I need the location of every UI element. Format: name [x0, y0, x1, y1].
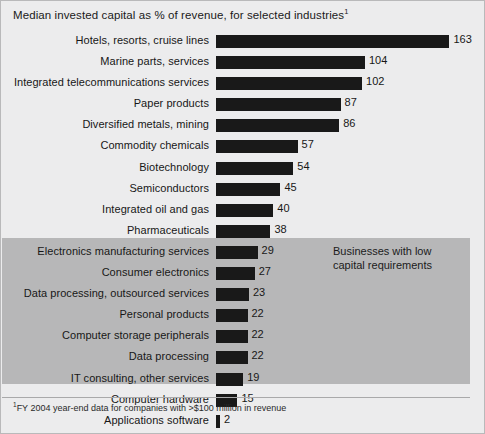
bar-value-label: 163 [453, 33, 471, 45]
bar-row: Pharmaceuticals38 [1, 221, 485, 242]
bar [216, 119, 339, 132]
bar [216, 225, 270, 238]
bar-category-label: Data processing, outsourced services [24, 287, 209, 299]
bar-row: Hotels, resorts, cruise lines163 [1, 31, 485, 52]
bar-track [216, 98, 341, 111]
bar-row: IT consulting, other services19 [1, 369, 485, 390]
bar-value-label: 19 [247, 371, 259, 383]
bar-row: Data processing, outsourced services23 [1, 284, 485, 305]
bar [216, 351, 248, 364]
bar [216, 77, 362, 90]
bar-category-label: Diversified metals, mining [82, 118, 209, 130]
bar [216, 162, 293, 175]
bar [216, 309, 248, 322]
bar-category-label: Hotels, resorts, cruise lines [76, 34, 210, 46]
bar-category-label: Semiconductors [129, 182, 209, 194]
bar-track [216, 183, 280, 196]
annotation-line-1: Businesses with low [333, 245, 463, 259]
bar-row: Commodity chemicals57 [1, 136, 485, 157]
annotation-line-2: capital requirements [333, 259, 463, 273]
bar-category-label: Biotechnology [139, 161, 209, 173]
bar-track [216, 373, 243, 386]
bar [216, 330, 248, 343]
bar-value-label: 27 [259, 265, 271, 277]
bar-category-label: Applications software [104, 414, 209, 426]
bar-value-label: 2 [224, 413, 230, 425]
bar-track [216, 162, 293, 175]
bar-category-label: Data processing [129, 350, 209, 362]
bar-track [216, 56, 365, 69]
bar-row: Data processing22 [1, 347, 485, 368]
bar-track [216, 330, 248, 343]
bar-track [216, 225, 270, 238]
bar-track [216, 246, 258, 259]
bar-value-label: 102 [366, 75, 384, 87]
bar-row: Computer storage peripherals22 [1, 326, 485, 347]
bar [216, 204, 273, 217]
bar-value-label: 22 [252, 307, 264, 319]
bar-track [216, 204, 273, 217]
chart-title-footnote-marker: 1 [344, 7, 348, 16]
bar [216, 267, 255, 280]
bar-value-label: 54 [297, 160, 309, 172]
chart-title-text: Median invested capital as % of revenue,… [13, 9, 344, 21]
bar [216, 35, 449, 48]
bar-track [216, 415, 220, 428]
bar-row: Personal products22 [1, 305, 485, 326]
bar-category-label: Integrated telecommunications services [14, 76, 209, 88]
bar-value-label: 23 [253, 286, 265, 298]
bar-row: Paper products87 [1, 94, 485, 115]
bar-track [216, 267, 255, 280]
chart-title: Median invested capital as % of revenue,… [13, 9, 348, 21]
bar-category-label: Paper products [134, 97, 209, 109]
bar-value-label: 22 [252, 328, 264, 340]
bar-category-label: Electronics manufacturing services [37, 245, 209, 257]
bar-value-label: 57 [302, 138, 314, 150]
chart-figure: Median invested capital as % of revenue,… [0, 0, 485, 434]
bar-chart-plot: Hotels, resorts, cruise lines163Marine p… [1, 31, 485, 387]
bar-value-label: 86 [343, 117, 355, 129]
bar-row: Integrated telecommunications services10… [1, 73, 485, 94]
bar [216, 98, 341, 111]
bar-value-label: 38 [274, 223, 286, 235]
bar-category-label: Commodity chemicals [100, 139, 209, 151]
bar-value-label: 40 [277, 202, 289, 214]
bar-value-label: 22 [252, 349, 264, 361]
bar-value-label: 29 [262, 244, 274, 256]
bar-track [216, 140, 298, 153]
bar [216, 246, 258, 259]
bar-category-label: Marine parts, services [100, 55, 209, 67]
footnote-text: FY 2004 year-end data for companies with… [17, 403, 287, 413]
footnote: 1FY 2004 year-end data for companies wit… [13, 403, 286, 413]
bar-value-label: 104 [369, 54, 387, 66]
bar [216, 56, 365, 69]
bar-row: Applications software2 [1, 411, 485, 432]
bar-category-label: Integrated oil and gas [102, 203, 209, 215]
bar-row: Biotechnology54 [1, 158, 485, 179]
bar-value-label: 45 [284, 181, 296, 193]
bar-track [216, 288, 249, 301]
bar-category-label: Personal products [119, 308, 209, 320]
bar-value-label: 87 [345, 96, 357, 108]
bar-category-label: Computer storage peripherals [62, 329, 209, 341]
footnote-divider [2, 397, 470, 398]
bar-track [216, 119, 339, 132]
bar-track [216, 35, 449, 48]
bar-row: Marine parts, services104 [1, 52, 485, 73]
bar-track [216, 309, 248, 322]
bar [216, 373, 243, 386]
bar [216, 140, 298, 153]
bar-category-label: Consumer electronics [102, 266, 209, 278]
bar-row: Semiconductors45 [1, 179, 485, 200]
bar-track [216, 351, 248, 364]
bar-category-label: Pharmaceuticals [127, 224, 209, 236]
bar [216, 183, 280, 196]
bar-track [216, 77, 362, 90]
bar-category-label: IT consulting, other services [71, 372, 209, 384]
bar-row: Integrated oil and gas40 [1, 200, 485, 221]
bar [216, 415, 220, 428]
low-capital-annotation: Businesses with low capital requirements [333, 245, 463, 272]
bar [216, 288, 249, 301]
bar-row: Diversified metals, mining86 [1, 115, 485, 136]
